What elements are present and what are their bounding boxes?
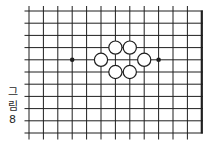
go-board-diagram <box>0 0 213 153</box>
white-stone <box>123 41 136 54</box>
figure-panel: 그 림 8 <box>0 0 213 153</box>
star-point <box>70 58 75 63</box>
white-stone <box>94 53 107 66</box>
white-stone <box>109 41 122 54</box>
white-stone <box>138 53 151 66</box>
caption-char-3: 8 <box>9 113 16 127</box>
white-stone <box>109 65 122 78</box>
star-point <box>156 58 161 63</box>
figure-caption: 그 림 8 <box>4 86 21 127</box>
caption-char-1: 그 <box>8 86 18 100</box>
caption-char-2: 림 <box>8 100 18 114</box>
white-stone <box>123 65 136 78</box>
